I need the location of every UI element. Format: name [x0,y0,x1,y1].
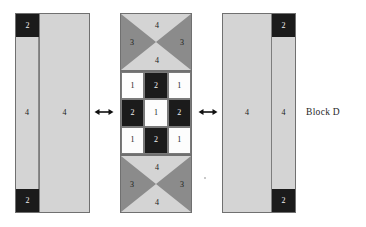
nine-patch-cell-r2c1: 2 [121,99,144,126]
nine-patch-cell-r1c3: 1 [168,72,191,99]
block-d-diagram: 2 4 2 4 4 [0,0,366,227]
left-block-narrow-strip: 4 [16,37,39,189]
nine-patch-cell-r2c2: 1 [144,99,167,126]
nine-patch-cell-r2c3: 2 [168,99,191,126]
right-block-bottom-black-square: 2 [272,189,295,212]
center-block-nine-patch: 1 2 1 2 1 2 1 2 1 [120,71,192,155]
left-block-top-square-label: 2 [25,22,29,30]
left-block: 2 4 2 4 [15,13,90,213]
center-block-bottom-hourglass: 4 3 3 4 [120,155,192,213]
nine-patch-cell-r3c2: 2 [144,127,167,154]
right-block: 4 2 4 2 [222,13,296,213]
nine-patch-label-r2c2: 1 [154,109,158,117]
hourglass-shape-icon [121,156,191,212]
right-block-narrow-strip-label: 4 [281,109,285,117]
nine-patch-label-r2c1: 2 [131,109,135,117]
left-block-top-black-square: 2 [16,14,39,37]
nine-patch-label-r2c3: 2 [177,109,181,117]
left-block-bottom-square-label: 2 [25,197,29,205]
right-block-narrow-strip: 4 [272,37,295,189]
right-block-top-black-square: 2 [272,14,295,37]
nine-patch-label-r1c1: 1 [131,82,135,90]
right-block-wide-strip: 4 [223,14,272,212]
hourglass-shape-icon [121,14,191,70]
nine-patch-cell-r3c3: 1 [168,127,191,154]
nine-patch-cell-r1c1: 1 [121,72,144,99]
center-block: 4 3 3 4 1 2 1 2 1 2 [120,13,192,213]
left-double-arrow [94,105,114,119]
nine-patch-label-r1c2: 2 [154,82,158,90]
nine-patch-cell-r3c1: 1 [121,127,144,154]
double-headed-horizontal-arrow-icon [198,105,218,119]
nine-patch-label-r1c3: 1 [177,82,181,90]
nine-patch-label-r3c1: 1 [131,136,135,144]
center-block-top-hourglass: 4 3 3 4 [120,13,192,71]
block-caption: Block D [306,107,340,117]
nine-patch-label-r3c2: 2 [154,136,158,144]
nine-patch-cell-r1c2: 2 [144,72,167,99]
right-block-top-square-label: 2 [281,22,285,30]
left-block-narrow-strip-label: 4 [25,109,29,117]
scan-artifact [204,177,206,179]
double-headed-horizontal-arrow-icon [94,105,114,119]
left-block-wide-strip: 4 [39,14,89,212]
right-double-arrow [198,105,218,119]
left-block-bottom-black-square: 2 [16,189,39,212]
right-block-bottom-square-label: 2 [281,197,285,205]
right-block-wide-strip-label: 4 [245,109,249,117]
left-block-wide-strip-label: 4 [62,109,66,117]
nine-patch-label-r3c3: 1 [177,136,181,144]
